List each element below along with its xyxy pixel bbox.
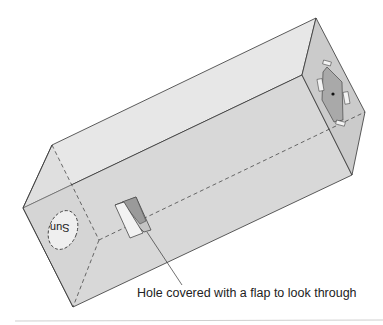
pinhole-box-diagram — [0, 0, 383, 325]
flap-caption: Hole covered with a flap to look through — [137, 286, 357, 300]
bottom-rule — [15, 320, 383, 321]
sun-label: Sun — [50, 222, 70, 234]
pinhole — [331, 92, 334, 95]
